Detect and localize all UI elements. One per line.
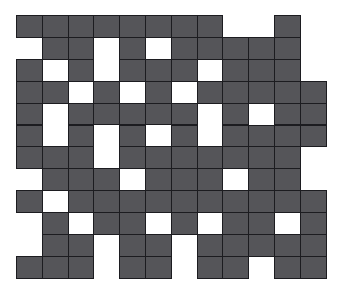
grid-cell-filled bbox=[274, 234, 301, 257]
grid-cell-filled bbox=[145, 168, 172, 191]
grid-cell-empty bbox=[119, 168, 146, 191]
grid-cell-filled bbox=[300, 190, 327, 213]
grid-cell-empty bbox=[16, 212, 43, 235]
grid-cell-filled bbox=[222, 146, 249, 169]
grid-cell-empty bbox=[300, 37, 327, 60]
grid-cell-filled bbox=[145, 15, 172, 38]
grid-cell-filled bbox=[93, 190, 120, 213]
grid-cell-filled bbox=[222, 37, 249, 60]
grid-cell-filled bbox=[145, 190, 172, 213]
grid-cell-filled bbox=[93, 15, 120, 38]
grid-cell-filled bbox=[145, 234, 172, 257]
grid-cell-filled bbox=[222, 256, 249, 279]
grid-cell-filled bbox=[248, 168, 275, 191]
grid-cell-empty bbox=[16, 37, 43, 60]
grid-cell-empty bbox=[93, 146, 120, 169]
grid-cell-filled bbox=[171, 37, 198, 60]
grid-cell-empty bbox=[197, 125, 224, 148]
grid-cell-filled bbox=[300, 103, 327, 126]
grid-cell-filled bbox=[171, 125, 198, 148]
grid-cell-filled bbox=[300, 234, 327, 257]
grid-cell-filled bbox=[119, 37, 146, 60]
grid-cell-filled bbox=[274, 168, 301, 191]
grid-cell-filled bbox=[222, 190, 249, 213]
grid-cell-empty bbox=[248, 103, 275, 126]
grid-cell-empty bbox=[248, 15, 275, 38]
grid-cell-empty bbox=[42, 59, 69, 82]
grid-cell-filled bbox=[274, 103, 301, 126]
grid-cell-filled bbox=[16, 146, 43, 169]
grid-cell-filled bbox=[171, 15, 198, 38]
grid-cell-empty bbox=[171, 256, 198, 279]
grid-cell-filled bbox=[68, 168, 95, 191]
grid-cell-empty bbox=[300, 15, 327, 38]
grid-cell-filled bbox=[248, 125, 275, 148]
grid-cell-filled bbox=[119, 234, 146, 257]
grid-cell-filled bbox=[93, 212, 120, 235]
grid-cell-empty bbox=[274, 212, 301, 235]
grid-cell-filled bbox=[93, 168, 120, 191]
grid-cell-filled bbox=[119, 256, 146, 279]
grid-cell-filled bbox=[248, 59, 275, 82]
grid-cell-empty bbox=[68, 81, 95, 104]
grid-cell-filled bbox=[197, 234, 224, 257]
grid-cell-filled bbox=[145, 103, 172, 126]
grid-cell-empty bbox=[222, 15, 249, 38]
grid-cell-filled bbox=[42, 168, 69, 191]
grid-cell-filled bbox=[16, 103, 43, 126]
grid-cell-filled bbox=[197, 190, 224, 213]
grid-cell-filled bbox=[274, 190, 301, 213]
grid-cell-filled bbox=[68, 15, 95, 38]
grid-cell-filled bbox=[197, 81, 224, 104]
grid-cell-filled bbox=[197, 168, 224, 191]
grid-cell-filled bbox=[300, 125, 327, 148]
grid-cell-empty bbox=[300, 168, 327, 191]
grid-cell-filled bbox=[274, 81, 301, 104]
grid-cell-empty bbox=[93, 234, 120, 257]
grid-cell-empty bbox=[222, 168, 249, 191]
grid-cell-filled bbox=[119, 190, 146, 213]
grid-cell-empty bbox=[171, 81, 198, 104]
grid-cell-filled bbox=[68, 37, 95, 60]
grid-cell-filled bbox=[274, 256, 301, 279]
grid-cell-empty bbox=[16, 168, 43, 191]
grid-cell-filled bbox=[248, 81, 275, 104]
grid-cell-empty bbox=[197, 103, 224, 126]
grid-cell-filled bbox=[42, 146, 69, 169]
grid-cell-empty bbox=[248, 256, 275, 279]
grid-cell-filled bbox=[68, 234, 95, 257]
grid-cell-filled bbox=[222, 234, 249, 257]
grid-cell-filled bbox=[171, 168, 198, 191]
grid-cell-filled bbox=[171, 212, 198, 235]
grid-cell-filled bbox=[16, 81, 43, 104]
grid-cell-filled bbox=[197, 256, 224, 279]
grid-cell-filled bbox=[222, 81, 249, 104]
grid-cell-filled bbox=[145, 256, 172, 279]
grid-cell-empty bbox=[68, 212, 95, 235]
grid-cell-filled bbox=[119, 212, 146, 235]
grid-cell-filled bbox=[197, 146, 224, 169]
grid-cell-empty bbox=[42, 190, 69, 213]
grid-cell-empty bbox=[300, 146, 327, 169]
grid-cell-filled bbox=[248, 234, 275, 257]
grid-cell-filled bbox=[248, 146, 275, 169]
grid-cell-filled bbox=[16, 190, 43, 213]
grid-cell-filled bbox=[119, 15, 146, 38]
grid-cell-filled bbox=[274, 59, 301, 82]
grid-cell-empty bbox=[42, 103, 69, 126]
grid-cell-filled bbox=[300, 212, 327, 235]
grid-cell-filled bbox=[68, 103, 95, 126]
grid-cell-empty bbox=[300, 59, 327, 82]
grid-cell-filled bbox=[145, 146, 172, 169]
grid-cell-empty bbox=[93, 59, 120, 82]
grid-cell-empty bbox=[145, 212, 172, 235]
grid-cell-filled bbox=[42, 37, 69, 60]
grid-cell-filled bbox=[42, 212, 69, 235]
grid-cell-empty bbox=[171, 234, 198, 257]
grid-cell-filled bbox=[16, 15, 43, 38]
grid-cell-empty bbox=[93, 125, 120, 148]
grid-cell-filled bbox=[16, 125, 43, 148]
grid-cell-filled bbox=[274, 146, 301, 169]
grid-cell-filled bbox=[68, 146, 95, 169]
grid-cell-empty bbox=[42, 125, 69, 148]
